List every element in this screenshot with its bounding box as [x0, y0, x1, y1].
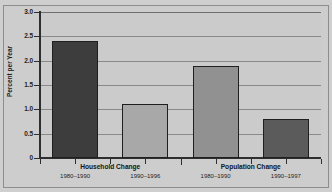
- y-axis-tick-label: 3.0: [3, 8, 33, 15]
- gridline: [40, 12, 321, 13]
- bar-chart-figure: 00.51.01.52.02.53.0 Percent per Year 198…: [0, 0, 332, 192]
- y-axis-tick-label: 0: [3, 154, 33, 161]
- y-axis-tick: [34, 109, 40, 110]
- y-axis-tick: [34, 134, 40, 135]
- y-axis-tick-label: 1.0: [3, 105, 33, 112]
- bar: [263, 119, 309, 158]
- bar: [52, 41, 98, 158]
- y-axis-tick: [34, 85, 40, 86]
- x-axis-period-label: 1980–1990: [35, 172, 115, 180]
- y-axis-tick: [34, 36, 40, 37]
- x-axis-tick: [181, 159, 182, 165]
- x-axis-period-label: 1990–1997: [246, 172, 326, 180]
- y-axis-title: Percent per Year: [6, 39, 13, 105]
- bar: [193, 66, 239, 158]
- x-axis-period-label: 1980–1990: [176, 172, 256, 180]
- x-axis-group-label: Population Change: [191, 163, 311, 171]
- x-axis-tick: [321, 159, 322, 164]
- y-axis-tick: [34, 61, 40, 62]
- y-axis-tick-label: 0.5: [3, 130, 33, 137]
- bar: [122, 104, 168, 158]
- gridline: [40, 36, 321, 37]
- y-axis-tick: [34, 12, 40, 13]
- x-axis-period-label: 1990–1996: [105, 172, 185, 180]
- x-axis-tick: [40, 159, 41, 164]
- x-axis-group-label: Household Change: [50, 163, 170, 171]
